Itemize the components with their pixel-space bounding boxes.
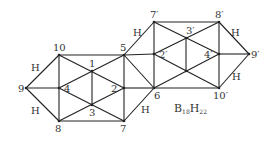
atom-node: [25, 87, 28, 90]
boron-hydride-structure-diagram: 10984123577′8′3′2′4′9′610′ HHHHHH B18H22: [0, 0, 274, 146]
atom-label: 10: [53, 42, 66, 53]
atom-label: 4′: [204, 49, 213, 60]
atom-label: 9: [18, 83, 24, 94]
atom-label: 2: [111, 83, 117, 94]
atom-node: [185, 37, 188, 40]
atom-label: 7′: [150, 9, 159, 20]
atom-node: [153, 87, 156, 90]
atom-label: 9′: [251, 49, 260, 60]
atom-node: [58, 87, 61, 90]
hydrogen-bridge-label: H: [133, 27, 142, 38]
atom-label: 2′: [159, 49, 168, 60]
atom-node: [185, 70, 188, 73]
atom-node: [123, 87, 126, 90]
atom-node: [58, 54, 61, 57]
atom-label: 8′: [215, 9, 224, 20]
atom-node: [91, 70, 94, 73]
atom-node: [153, 53, 156, 56]
atom-node: [218, 87, 221, 90]
hydrogen-bridge-label: H: [31, 105, 40, 116]
atom-node: [153, 21, 156, 24]
hydrogen-bridge-label: H: [141, 104, 150, 115]
hydrogen-bridge-label: H: [232, 71, 241, 82]
atom-node: [123, 54, 126, 57]
atom-node: [218, 53, 221, 56]
atom-label: 7: [120, 123, 126, 134]
atom-label: 3: [89, 107, 95, 118]
atom-node: [123, 120, 126, 123]
bond-edge: [124, 54, 154, 55]
atom-label: 8: [55, 123, 61, 134]
hydrogen-bridge-label: H: [31, 62, 40, 73]
atom-node: [218, 21, 221, 24]
atom-label: 6: [154, 90, 160, 101]
atom-label: 3′: [186, 25, 195, 36]
hydrogen-bridge-label: H: [231, 27, 240, 38]
hydrogen-labels: HHHHHH: [31, 27, 241, 116]
atom-node: [248, 53, 251, 56]
bond-edge: [124, 55, 154, 88]
atom-label: 10′: [213, 90, 229, 101]
atom-node: [91, 104, 94, 107]
atom-node: [58, 120, 61, 123]
atom-label: 1: [89, 58, 95, 69]
atom-label: 5: [120, 42, 126, 53]
atom-label: 4: [64, 83, 70, 94]
molecular-formula: B18H22: [174, 102, 207, 115]
